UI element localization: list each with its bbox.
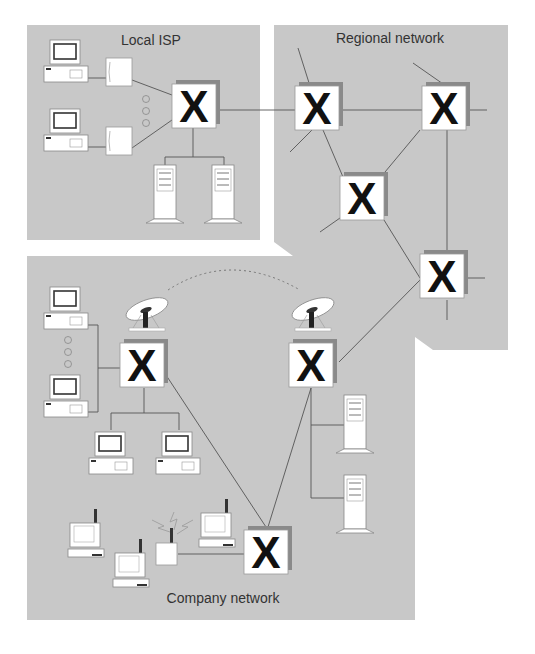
label-local-isp: Local ISP — [121, 32, 181, 48]
router-company-3 — [244, 526, 292, 577]
router-regional-3 — [340, 172, 388, 223]
router-regional-4 — [420, 250, 468, 301]
modem-icon — [106, 58, 132, 86]
label-company-network: Company network — [167, 590, 281, 606]
router-regional-2 — [422, 82, 470, 133]
label-regional-network: Regional network — [336, 30, 445, 46]
router-company-1 — [120, 339, 168, 390]
router-local-isp — [172, 80, 220, 131]
network-diagram: X — [0, 0, 535, 654]
router-company-2 — [289, 339, 337, 390]
modem-icon — [106, 127, 132, 155]
router-regional-1 — [295, 82, 343, 133]
